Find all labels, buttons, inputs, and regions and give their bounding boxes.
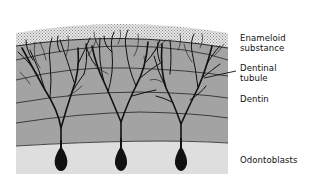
label-dentin: Dentin	[240, 94, 269, 104]
label-odontoblasts: Odontoblasts	[240, 155, 298, 165]
label-dentinal-tubule: Dentinal tubule	[240, 63, 277, 83]
label-dentinal-line1: Dentinal	[240, 63, 277, 73]
label-enameloid-line2: substance	[240, 43, 286, 53]
label-enameloid-line1: Enameloid	[240, 33, 286, 43]
label-dentinal-line2: tubule	[240, 73, 277, 83]
label-enameloid-substance: Enameloid substance	[240, 33, 286, 53]
